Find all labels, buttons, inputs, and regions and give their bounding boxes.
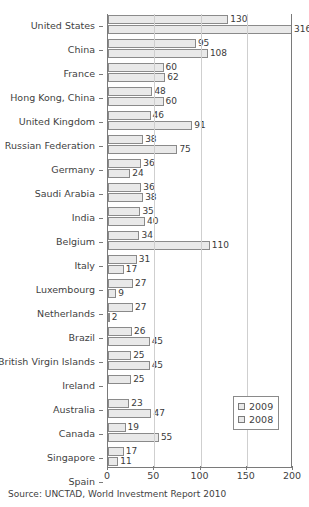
- bar-2009: [108, 111, 151, 120]
- bar-group: 3117: [108, 254, 291, 278]
- bar-value-label: 110: [212, 241, 229, 250]
- category-label: Russian Federation: [5, 134, 95, 158]
- bar-2009: [108, 327, 132, 336]
- category-label: Germany: [51, 158, 95, 182]
- category-tick: [99, 482, 103, 483]
- category-tick: [99, 50, 103, 51]
- x-tick-label: 200: [283, 470, 301, 481]
- bar-group: 2645: [108, 326, 291, 350]
- category-label: Brazil: [68, 326, 95, 350]
- bar-group: 1711: [108, 446, 291, 467]
- category-label: Italy: [74, 254, 95, 278]
- x-tick-label: 150: [237, 470, 255, 481]
- bar-group: 3624: [108, 158, 291, 182]
- bar-group: 2545: [108, 350, 291, 374]
- source-note: Source: UNCTAD, World Investment Report …: [8, 489, 226, 499]
- category-tick: [99, 386, 103, 387]
- bar-2008: [108, 313, 110, 322]
- bar-2009: [108, 447, 124, 456]
- category-tick: [99, 338, 103, 339]
- bar-value-label: 34: [141, 231, 152, 240]
- x-tick: [153, 466, 154, 470]
- bar-2009: [108, 87, 152, 96]
- category-label: China: [68, 38, 95, 62]
- bar-value-label: 23: [131, 399, 142, 408]
- category-label: Saudi Arabia: [35, 182, 95, 206]
- bar-2009: [108, 183, 141, 192]
- bar-value-label: 40: [147, 217, 158, 226]
- category-label: Ireland: [62, 374, 95, 398]
- bar-2009: [108, 15, 228, 24]
- legend-item[interactable]: 2008: [238, 413, 273, 426]
- bar-2008: [108, 457, 118, 466]
- category-tick: [99, 290, 103, 291]
- bar-2009: [108, 159, 141, 168]
- bar-value-label: 9: [118, 289, 124, 298]
- bar-2009: [108, 399, 129, 408]
- x-tick: [200, 466, 201, 470]
- bar-2009: [108, 255, 137, 264]
- bar-2009: [108, 303, 133, 312]
- category-label: Australia: [53, 398, 95, 422]
- bar-value-label: 24: [132, 169, 143, 178]
- bar-2009: [108, 231, 139, 240]
- category-label: British Virgin Islands: [0, 350, 95, 374]
- category-tick: [99, 362, 103, 363]
- x-tick-label: 0: [104, 470, 110, 481]
- x-tick: [107, 466, 108, 470]
- bar-value-label: 36: [143, 159, 154, 168]
- bar-2009: [108, 135, 143, 144]
- category-label: Belgium: [56, 230, 95, 254]
- bar-2008: [108, 337, 150, 346]
- bar-group: 130316: [108, 14, 291, 38]
- category-tick: [99, 26, 103, 27]
- bar-group: 272: [108, 302, 291, 326]
- bar-2009: [108, 375, 131, 384]
- bar-value-label: 62: [167, 73, 178, 82]
- bar-value-label: 25: [133, 351, 144, 360]
- bar-2009: [108, 279, 133, 288]
- bar-value-label: 19: [128, 423, 139, 432]
- bar-2008: [108, 121, 192, 130]
- bar-2008: [108, 241, 210, 250]
- bar-2008: [108, 289, 116, 298]
- x-tick: [292, 466, 293, 470]
- bar-chart: United StatesChinaFranceHong Kong, China…: [0, 0, 309, 507]
- bar-group: 4691: [108, 110, 291, 134]
- legend-swatch-icon: [238, 403, 245, 410]
- x-tick-label: 50: [147, 470, 159, 481]
- legend-item[interactable]: 2009: [238, 400, 273, 413]
- bar-2008: [108, 25, 291, 34]
- bar-2008: [108, 409, 151, 418]
- bar-value-label: 26: [134, 327, 145, 336]
- bar-value-label: 130: [230, 15, 247, 24]
- category-tick: [99, 194, 103, 195]
- bar-2009: [108, 207, 140, 216]
- category-tick: [99, 146, 103, 147]
- category-label: France: [63, 62, 95, 86]
- bar-group: 6062: [108, 62, 291, 86]
- category-tick: [99, 314, 103, 315]
- category-label: United Kingdom: [19, 110, 95, 134]
- bar-value-label: 2: [112, 313, 118, 322]
- bar-group: 4860: [108, 86, 291, 110]
- category-tick: [99, 122, 103, 123]
- category-label: Luxembourg: [36, 278, 95, 302]
- bar-2008: [108, 145, 177, 154]
- bar-value-label: 11: [120, 457, 131, 466]
- bar-2008: [108, 73, 165, 82]
- category-tick: [99, 266, 103, 267]
- category-label: Netherlands: [37, 302, 95, 326]
- legend-label: 2009: [249, 401, 273, 412]
- bar-value-label: 36: [143, 183, 154, 192]
- bar-2008: [108, 361, 150, 370]
- bar-value-label: 17: [126, 265, 137, 274]
- bar-value-label: 25: [133, 375, 144, 384]
- bar-group: 279: [108, 278, 291, 302]
- bar-group: 95108: [108, 38, 291, 62]
- legend-swatch-icon: [238, 416, 245, 423]
- bar-2008: [108, 433, 159, 442]
- bar-2008: [108, 169, 130, 178]
- bar-value-label: 108: [210, 49, 227, 58]
- bar-value-label: 35: [142, 207, 153, 216]
